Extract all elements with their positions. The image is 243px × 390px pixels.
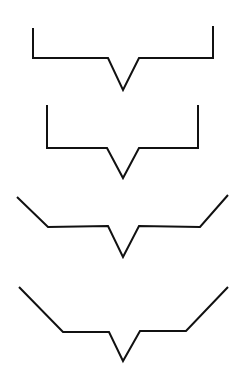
diagram-canvas <box>0 0 243 390</box>
bracket-shape-2 <box>47 105 198 178</box>
bracket-shape-3 <box>17 195 228 257</box>
bracket-shape-4 <box>19 287 228 361</box>
bracket-shape-1 <box>33 26 213 90</box>
diagram-svg <box>0 0 243 390</box>
